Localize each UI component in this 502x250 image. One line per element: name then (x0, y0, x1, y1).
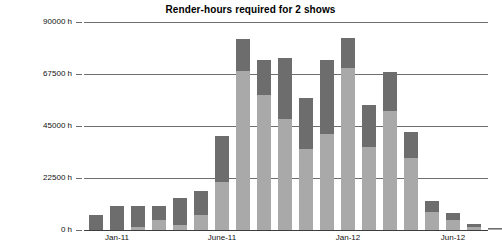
bar-segment-show-a (236, 71, 250, 231)
bar-segment-show-a (383, 111, 397, 230)
bar-segment-show-a (362, 147, 376, 230)
bar-june-11 (236, 22, 250, 230)
bar-segment-show-a (299, 149, 313, 230)
y-tick-label: 0 h (0, 225, 72, 234)
y-tick-mark (76, 230, 82, 231)
bar-apr-12 (446, 22, 460, 230)
bar-segment-show-a (425, 212, 439, 231)
bar-segment-show-b (89, 215, 103, 230)
bar-segment-show-b (446, 213, 460, 220)
y-tick-mark (76, 178, 82, 179)
bar-aug-11 (278, 22, 292, 230)
bar-apr-11 (194, 22, 208, 230)
bar-mar-12 (425, 22, 439, 230)
bar-mar-11 (173, 22, 187, 230)
y-tick-label: 67500 h (0, 69, 72, 78)
bar-segment-show-b (320, 60, 334, 134)
bar-segment-show-b (404, 132, 418, 159)
bar-feb-11 (152, 22, 166, 230)
bar-segment-show-b (173, 198, 187, 226)
bar-segment-show-b (194, 191, 208, 215)
bar-jan-12 (383, 22, 397, 230)
bar-segment-show-b (467, 224, 481, 226)
bar-segment-show-b (215, 136, 229, 181)
bar-segment-show-a (152, 220, 166, 230)
bar-segment-show-a (278, 119, 292, 230)
bar-jul-11 (257, 22, 271, 230)
y-tick-mark (76, 22, 82, 23)
x-tick-label: Jan-11 (105, 233, 129, 242)
bar-segment-show-a (488, 229, 502, 230)
chart-title: Render-hours required for 2 shows (0, 4, 501, 15)
bar-segment-show-a (467, 227, 481, 231)
bar-nov-11 (341, 22, 355, 230)
bar-segment-show-a (215, 182, 229, 231)
bar-segment-show-b (425, 201, 439, 211)
bar-segment-show-a (173, 225, 187, 230)
y-tick-label: 45000 h (0, 121, 72, 130)
y-tick-label: 90000 h (0, 17, 72, 26)
bar-segment-show-a (194, 215, 208, 230)
bar-segment-show-b (152, 206, 166, 220)
bar-segment-show-a (404, 158, 418, 230)
x-tick-label: Jan-12 (336, 233, 360, 242)
y-tick-mark (76, 126, 82, 127)
bar-segment-show-b (362, 105, 376, 147)
y-tick-mark (76, 74, 82, 75)
bar-segment-show-a (131, 227, 145, 231)
bar-may-12 (467, 22, 481, 230)
bar-feb-12 (404, 22, 418, 230)
gridline-0 (84, 230, 488, 231)
bar-segment-show-a (446, 220, 460, 230)
y-tick-label: 22500 h (0, 173, 72, 182)
bar-segment-show-b (341, 38, 355, 68)
bar-segment-show-b (131, 206, 145, 227)
bar-segment-show-b (278, 58, 292, 119)
plot-area (84, 22, 488, 230)
bar-segment-show-a (341, 68, 355, 230)
bar-segment-show-b (299, 98, 313, 149)
bar-sep-11 (299, 22, 313, 230)
bar-segment-show-b (383, 72, 397, 111)
bar-dec-10 (110, 22, 124, 230)
bar-segment-show-b (110, 206, 124, 230)
bar-segment-show-b (236, 39, 250, 70)
bar-jan-11 (131, 22, 145, 230)
bar-segment-show-b (488, 228, 502, 229)
x-tick-label: June-11 (208, 233, 236, 242)
bar-dec-11 (362, 22, 376, 230)
bar-nov-10 (89, 22, 103, 230)
bar-jun-12 (488, 22, 502, 230)
bar-segment-show-a (320, 134, 334, 230)
bar-segment-show-b (257, 60, 271, 95)
x-tick-label: Jun-12 (441, 233, 465, 242)
bar-oct-11 (320, 22, 334, 230)
bar-may-11 (215, 22, 229, 230)
bar-segment-show-a (257, 95, 271, 230)
